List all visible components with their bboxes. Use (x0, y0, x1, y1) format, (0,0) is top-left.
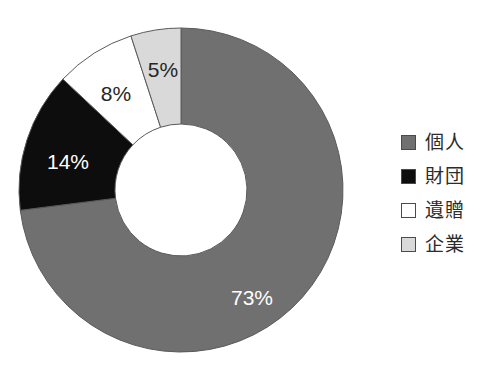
legend-label-individual: 個人 (425, 133, 464, 152)
slice-value-label-4: 5% (148, 58, 178, 81)
legend-item-bequest[interactable]: 遺贈 (401, 199, 485, 221)
legend-swatch-icon-corporate (401, 237, 416, 252)
legend-label-foundation: 財団 (425, 167, 464, 186)
legend-label-bequest: 遺贈 (425, 201, 464, 220)
chart-legend: 個人 財団 遺贈 企業 (401, 131, 485, 255)
legend-item-individual[interactable]: 個人 (401, 131, 485, 153)
slice-value-label-2: 14% (47, 150, 89, 173)
legend-item-corporate[interactable]: 企業 (401, 233, 485, 255)
slice-value-label-3: 8% (101, 82, 131, 105)
donut-slices-group (19, 28, 343, 352)
legend-swatch-icon-foundation (401, 169, 416, 184)
slice-value-label-1: 73% (231, 286, 273, 309)
donut-chart-figure: 73%14%8%5% 個人 財団 遺贈 企業 (0, 0, 485, 378)
legend-label-corporate: 企業 (425, 235, 464, 254)
legend-item-foundation[interactable]: 財団 (401, 165, 485, 187)
legend-swatch-icon-bequest (401, 203, 416, 218)
legend-swatch-icon-individual (401, 135, 416, 150)
